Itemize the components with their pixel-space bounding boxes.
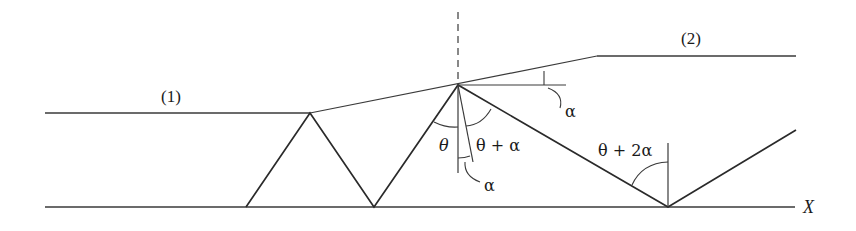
alpha-bottom-label: α: [484, 176, 495, 195]
alpha-top-label: α: [565, 102, 576, 121]
theta-arc: [434, 122, 458, 127]
theta-plus-alpha-label: θ + α: [476, 136, 520, 155]
alpha-top-leader: [548, 88, 561, 108]
axis-x-label: X: [802, 197, 815, 217]
diagram-svg: (1) (2) X θ θ + α α α θ + 2α: [0, 0, 856, 231]
medium-1-label: (1): [161, 87, 181, 106]
slope-normal-line: [458, 85, 473, 162]
theta-plus-2alpha-arc: [632, 162, 668, 185]
medium-2-label: (2): [681, 29, 701, 48]
theta-plus-2alpha-label: θ + 2α: [598, 141, 652, 160]
alpha-bottom-leader: [465, 162, 480, 182]
theta-plus-alpha-arc: [466, 109, 491, 126]
diagram-canvas: (1) (2) X θ θ + α α α θ + 2α: [0, 0, 856, 231]
alpha-bottom-arc: [458, 156, 470, 158]
theta-label: θ: [439, 136, 449, 155]
ray-path: [246, 85, 796, 207]
